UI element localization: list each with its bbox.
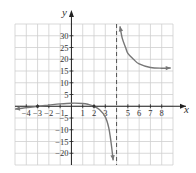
y-tick-label: 15 (60, 66, 69, 76)
x-tick-label: −3 (33, 108, 42, 118)
x-tick-label: 6 (137, 108, 141, 118)
y-tick-label: 20 (60, 54, 69, 64)
x-tick-label: −2 (44, 108, 53, 118)
x-tick-label: 8 (160, 108, 164, 118)
curves (15, 26, 171, 160)
y-tick-label: 5 (64, 90, 68, 100)
x-axis-label: x (183, 103, 189, 115)
x-tick-label: 2 (92, 108, 96, 118)
y-axis-label: y (61, 6, 67, 18)
grid (15, 24, 173, 165)
point-marker (92, 105, 95, 108)
x-tick-label: 1 (81, 108, 85, 118)
curve-arrow-icon (119, 26, 123, 31)
x-tick-label: 7 (148, 108, 152, 118)
x-tick-label: 5 (126, 108, 130, 118)
y-tick-label: 25 (60, 43, 69, 53)
y-tick-label: −20 (55, 148, 68, 158)
x-tick-label: −4 (22, 108, 32, 118)
y-axis-arrow-icon (69, 10, 74, 17)
point-marker (36, 105, 39, 108)
curve-arrow-icon (166, 66, 171, 70)
y-tick-label: −15 (55, 137, 68, 147)
y-tick-label: 30 (60, 31, 69, 41)
y-tick-label: −5 (59, 113, 68, 123)
y-tick-label: −10 (55, 125, 68, 135)
rational-function-graph: −4−3−2−1123567830252015105−5−10−15−20 x … (0, 0, 196, 173)
y-tick-label: 10 (60, 78, 69, 88)
